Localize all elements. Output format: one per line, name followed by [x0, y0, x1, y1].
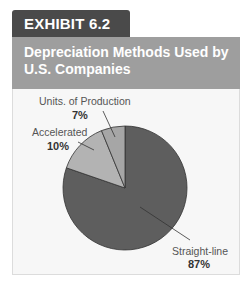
pct-straight-line: 87%	[188, 258, 210, 270]
pct-units-of-production: 7%	[72, 109, 88, 121]
label-units-of-production: Units. of Production	[39, 95, 131, 107]
label-straight-line: Straight-line	[172, 245, 228, 257]
label-accelerated: Accelerated	[32, 126, 88, 138]
pct-accelerated: 10%	[47, 140, 69, 152]
pie-chart: Units. of Production 7% Accelerated 10% …	[0, 0, 252, 283]
